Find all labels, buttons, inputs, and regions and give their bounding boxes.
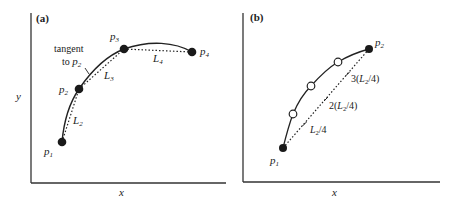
label-p2: p2 (374, 36, 385, 50)
tangent-annotation-line1: tangent (54, 43, 84, 54)
label-p3: p3 (109, 30, 120, 44)
label-quarter-2: 2(L2/4) (329, 100, 357, 112)
panel-a: (a) y x p1 p2 p3 p4 L2 (15, 12, 226, 198)
tangent-pointer (85, 68, 89, 74)
label-p1: p1 (269, 154, 279, 168)
figure: (a) y x p1 p2 p3 p4 L2 (0, 0, 454, 204)
point-p3 (120, 45, 129, 54)
x-axis-label: x (118, 186, 124, 198)
point-p1 (58, 138, 67, 147)
point-p2 (75, 85, 84, 94)
label-quarter-1: L2/4 (309, 124, 327, 136)
subdivision-point-3 (334, 58, 342, 66)
label-p2: p2 (58, 83, 69, 97)
point-p1 (279, 144, 287, 152)
label-L4: L4 (152, 52, 163, 66)
label-L3: L3 (103, 69, 114, 83)
tangent-annotation-line2: to p2 (62, 55, 82, 69)
panel-label: (a) (36, 12, 49, 25)
panel-b: (b) x p1 p2 L2/4 2(L2/4) 3(L2/4) (243, 11, 440, 198)
x-axis-label: x (331, 186, 337, 198)
subdivision-point-1 (289, 110, 297, 118)
panel-label: (b) (250, 11, 264, 24)
label-L2: L2 (72, 114, 83, 128)
tick-quarter-1 (303, 122, 307, 126)
label-p1: p1 (43, 145, 53, 159)
tick-quarter-3 (346, 72, 350, 76)
label-p4: p4 (199, 45, 210, 59)
tick-quarter-2 (324, 97, 328, 101)
point-p2 (365, 45, 373, 53)
y-axis-label: y (15, 90, 21, 102)
label-quarter-3: 3(L2/4) (351, 73, 379, 85)
subdivision-point-2 (307, 82, 315, 90)
point-p4 (188, 48, 197, 57)
